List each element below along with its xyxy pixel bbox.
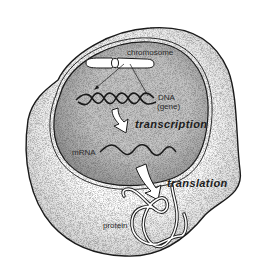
transcription-label: transcription: [135, 119, 207, 130]
dna-label: DNA: [158, 94, 175, 102]
diagram-canvas: [0, 0, 266, 276]
mrna-label: mRNA: [72, 149, 96, 157]
protein-label: protein: [103, 222, 127, 230]
gene-expression-diagram: chromosome DNA (gene) transcription mRNA…: [0, 0, 266, 276]
translation-label: translation: [167, 178, 228, 189]
gene-label: (gene): [157, 103, 180, 111]
chromosome-label: chromosome: [127, 49, 173, 57]
chromosome-icon: [86, 58, 154, 68]
